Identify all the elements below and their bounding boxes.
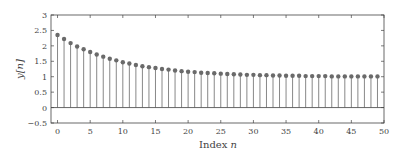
stem-marker	[225, 72, 229, 76]
x-tick-label: 5	[88, 127, 93, 136]
x-axis-label: Index n	[199, 139, 237, 150]
stem-marker	[68, 41, 72, 45]
stem-marker	[179, 69, 183, 73]
stem-series	[58, 35, 378, 108]
stem-marker	[88, 50, 92, 54]
stem-marker	[199, 71, 203, 75]
stem-marker	[369, 74, 373, 78]
stem-marker	[140, 64, 144, 68]
stem-marker	[343, 74, 347, 78]
y-tick-label: 0	[42, 104, 47, 113]
stem-marker	[317, 74, 321, 78]
y-tick-label: 2	[42, 42, 47, 51]
stem-marker	[336, 74, 340, 78]
x-tick-label: 45	[346, 127, 356, 136]
stem-marker	[186, 70, 190, 74]
plot-frame	[51, 15, 384, 123]
stem-marker	[95, 52, 99, 56]
stem-marker	[114, 58, 118, 62]
stem-marker	[310, 74, 314, 78]
stem-marker	[212, 71, 216, 75]
y-tick-label: 3	[42, 11, 47, 20]
y-tick-label: 0.5	[34, 88, 47, 97]
stem-marker	[75, 44, 79, 48]
y-axis-ticks: −0.500.511.522.53	[28, 11, 384, 128]
stem-marker	[251, 73, 255, 77]
y-tick-label: 1.5	[34, 57, 47, 66]
stem-marker	[238, 72, 242, 76]
stem-marker	[121, 60, 125, 64]
stem-marker	[101, 54, 105, 58]
stem-marker	[323, 74, 327, 78]
stem-marker	[362, 74, 366, 78]
y-tick-label: 2.5	[34, 26, 47, 35]
stem-marker	[284, 74, 288, 78]
stem-marker	[108, 57, 112, 61]
x-tick-label: 20	[183, 127, 193, 136]
stem-chart: 05101520253035404550 −0.500.511.522.53 I…	[0, 0, 403, 155]
stem-marker	[258, 73, 262, 77]
stem-marker	[290, 74, 294, 78]
x-tick-label: 15	[150, 127, 160, 136]
stem-marker	[232, 72, 236, 76]
stem-marker	[349, 74, 353, 78]
stem-marker	[81, 47, 85, 51]
stem-marker	[153, 66, 157, 70]
x-tick-label: 35	[281, 127, 291, 136]
x-tick-label: 0	[55, 127, 60, 136]
stem-marker	[166, 67, 170, 71]
y-axis-label: y[n]	[14, 59, 25, 80]
stem-marker	[264, 73, 268, 77]
y-tick-label: 1	[42, 73, 47, 82]
x-tick-label: 40	[314, 127, 324, 136]
stem-marker	[147, 65, 151, 69]
stem-marker	[271, 73, 275, 77]
stem-marker	[219, 71, 223, 75]
stem-marker	[356, 74, 360, 78]
stem-markers	[55, 33, 379, 79]
stem-marker	[277, 73, 281, 77]
stem-marker	[160, 67, 164, 71]
stem-marker	[245, 73, 249, 77]
stem-marker	[206, 71, 210, 75]
stem-marker	[127, 61, 131, 65]
stem-marker	[134, 63, 138, 67]
stem-marker	[297, 74, 301, 78]
x-tick-label: 30	[248, 127, 258, 136]
stem-marker	[192, 70, 196, 74]
stem-marker	[55, 33, 59, 37]
stem-marker	[62, 37, 66, 41]
x-tick-label: 10	[118, 127, 128, 136]
x-tick-label: 25	[216, 127, 226, 136]
x-tick-label: 50	[379, 127, 389, 136]
stem-marker	[330, 74, 334, 78]
stem-marker	[303, 74, 307, 78]
y-tick-label: −0.5	[28, 119, 47, 128]
stem-marker	[173, 68, 177, 72]
stem-marker	[375, 74, 379, 78]
